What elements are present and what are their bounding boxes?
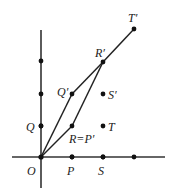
segment-R_prime-T_prime [103, 29, 134, 62]
x-tick-dot [132, 155, 137, 160]
label-T_prime: T′ [128, 11, 138, 25]
point-T_prime [132, 27, 137, 32]
y-tick-dot [39, 92, 44, 97]
label-Q_prime: Q′ [57, 85, 69, 99]
label-R: R=P′ [68, 132, 95, 146]
label-Q: Q [26, 120, 35, 134]
label-S: S [98, 164, 104, 178]
segment-O-R [41, 126, 72, 157]
segment-O-Q_prime [41, 94, 72, 157]
point-R [70, 124, 75, 129]
label-P: P [66, 164, 75, 178]
origin-dot [38, 154, 43, 159]
label-T: T [108, 120, 116, 134]
point-Q_prime [70, 92, 75, 97]
point-S_prime [101, 92, 106, 97]
point-R_prime [101, 60, 106, 65]
segment-R-R_prime [72, 62, 103, 126]
point-T [101, 124, 106, 129]
point-S [101, 155, 106, 160]
label-S_prime: S′ [108, 88, 117, 102]
label-O: O [27, 164, 36, 178]
point-P [70, 155, 75, 160]
label-R_prime: R′ [94, 46, 105, 60]
y-tick-dot [39, 59, 44, 64]
segment-Q_prime-R_prime [72, 62, 103, 94]
point-Q [39, 124, 44, 129]
diagram-canvas: PSQTR=P′S′Q′R′T′O [0, 0, 176, 194]
